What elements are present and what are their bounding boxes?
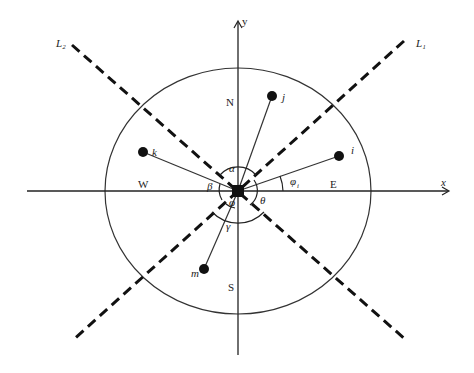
node-i: [334, 151, 344, 161]
angle-phi-i-label: φ: [290, 175, 296, 187]
direction-south: S: [228, 281, 234, 293]
direction-east: E: [330, 178, 337, 190]
angle-gamma-label: γ: [226, 220, 231, 232]
node-m: [199, 264, 209, 274]
y-axis-label: y: [242, 15, 248, 27]
line-L2-label: L₂: [55, 37, 66, 49]
angle-phi-label: φ: [229, 196, 235, 208]
node-m-label: m: [191, 267, 199, 279]
angle-theta-label: θ: [260, 194, 266, 206]
line-L1-label: L₁: [415, 37, 426, 49]
diagram-canvas: x y L₁ L₂ j i k m N W E S α β θ φ γ φ i: [0, 0, 474, 373]
angle-alpha-label: α: [229, 162, 235, 174]
direction-west: W: [138, 178, 149, 190]
arc-beta: [219, 184, 222, 200]
node-i-label: i: [351, 144, 354, 156]
node-k-label: k: [152, 146, 158, 158]
node-j-label: j: [280, 91, 285, 103]
angle-phi-i-subscript: i: [297, 182, 299, 190]
arc-phi-i: [280, 176, 283, 191]
x-axis-label: x: [440, 176, 446, 188]
node-j: [267, 91, 277, 101]
angle-beta-label: β: [206, 180, 213, 192]
node-k: [138, 147, 148, 157]
direction-north: N: [226, 96, 234, 108]
arc-theta: [250, 180, 257, 205]
spoke-i: [238, 156, 339, 191]
